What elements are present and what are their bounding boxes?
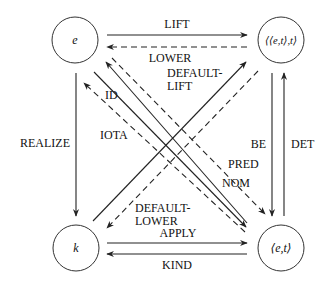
edge-kind-label: KIND [162,258,192,272]
edge-default-lift-label2: LIFT [167,79,193,93]
edge-det-label: DET [291,137,315,151]
node-et-label: ⟨e,t⟩ [270,241,291,255]
edge-iota-label: IOTA [100,128,128,142]
node-et: ⟨e,t⟩ [258,225,304,271]
edge-realize-label: REALIZE [20,136,70,150]
edge-apply-label: APPLY [160,226,197,240]
edge-default-lower-label1: DEFAULT- [135,201,191,215]
node-e-label: e [72,33,78,47]
node-et-t: ⟨⟨e,t⟩,t⟩ [258,17,304,63]
node-e: e [52,17,98,63]
edge-nom-label: NOM [222,176,250,190]
node-et-t-label: ⟨⟨e,t⟩,t⟩ [265,35,297,46]
edge-lower-label: LOWER [149,51,192,65]
node-k: k [53,225,99,271]
edge-pred-label: PRED [228,157,259,171]
edge-lift-label: LIFT [164,17,190,31]
edge-default-lower-label2: LOWER [135,214,178,228]
edge-default-lift-label1: DEFAULT- [167,66,223,80]
node-k-label: k [73,241,79,255]
type-shifting-diagram: e ⟨⟨e,t⟩,t⟩ k ⟨e,t⟩ LIFT LOWER REALIZE B… [0,0,328,289]
edge-be-label: BE [251,137,266,151]
